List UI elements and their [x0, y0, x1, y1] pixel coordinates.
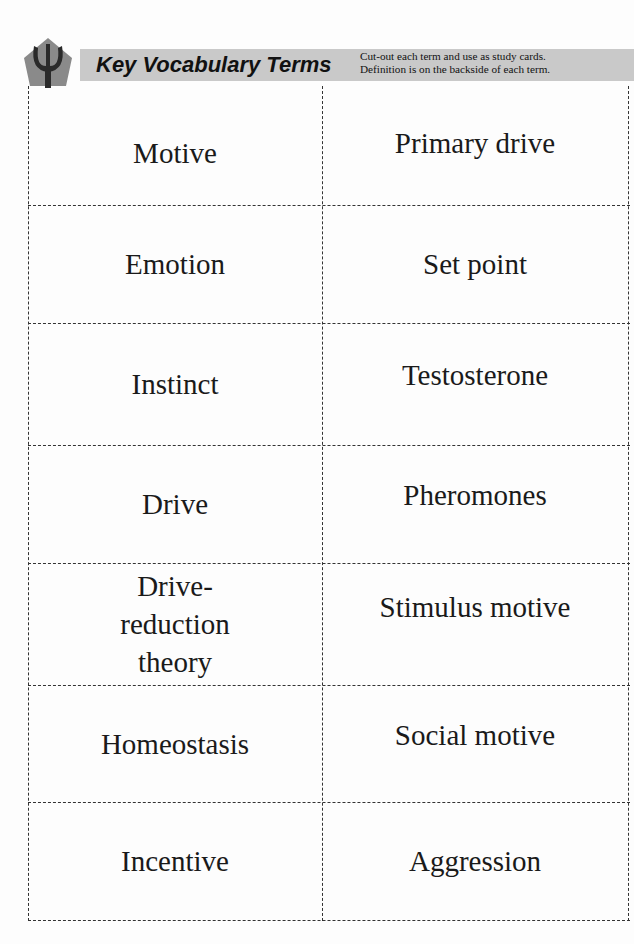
term-card: Emotion: [28, 205, 322, 323]
term-card: Drive-reduction theory: [88, 563, 262, 685]
instructions: Cut-out each term and use as study cards…: [360, 50, 550, 76]
term-card: Motive: [28, 86, 322, 220]
page-title: Key Vocabulary Terms: [96, 52, 332, 78]
term-card: Drive: [28, 445, 322, 563]
psi-icon: [22, 36, 74, 88]
worksheet-header: Key Vocabulary Terms Cut-out each term a…: [0, 36, 634, 88]
term-card: Instinct: [28, 323, 322, 445]
term-card: Pheromones: [322, 445, 628, 545]
term-card: Set point: [322, 205, 628, 323]
cut-line: [628, 86, 629, 921]
term-card: Primary drive: [322, 86, 628, 200]
vocabulary-card-grid: Motive Primary drive Emotion Set point I…: [28, 86, 630, 921]
term-card: Social motive: [322, 685, 628, 785]
term-card: Homeostasis: [28, 685, 322, 802]
term-card: Aggression: [322, 802, 628, 920]
term-card: Testosterone: [322, 323, 628, 427]
term-card: Incentive: [28, 802, 322, 920]
term-card: Stimulus motive: [322, 563, 628, 651]
cut-line: [28, 920, 630, 921]
